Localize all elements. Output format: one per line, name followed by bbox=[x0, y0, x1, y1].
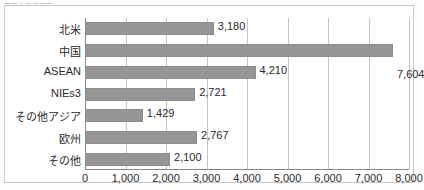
bar-value-label: 1,429 bbox=[147, 107, 175, 119]
plot-area: 01,0002,0003,0004,0005,0006,0007,0008,00… bbox=[85, 18, 409, 170]
chart-frame: 01,0002,0003,0004,0005,0006,0007,0008,00… bbox=[4, 5, 414, 183]
bar-value-label: 4,210 bbox=[260, 64, 288, 76]
bar-row: 北米3,180 bbox=[85, 22, 409, 35]
x-tick-label: 2,000 bbox=[152, 172, 180, 184]
category-label: ASEAN bbox=[44, 65, 81, 77]
x-tick-label: 4,000 bbox=[233, 172, 261, 184]
bar-value-label: 2,767 bbox=[201, 129, 229, 141]
bar-row: ASEAN4,210 bbox=[85, 66, 409, 79]
bar[interactable] bbox=[85, 131, 197, 144]
bar-value-label: 2,100 bbox=[174, 151, 202, 163]
bar-row: その他2,100 bbox=[85, 153, 409, 166]
x-tick-label: 6,000 bbox=[314, 172, 342, 184]
bar-row: NIEs32,721 bbox=[85, 88, 409, 101]
category-label: 欧州 bbox=[59, 130, 81, 146]
bar[interactable] bbox=[85, 153, 170, 166]
x-tick-label: 7,000 bbox=[355, 172, 383, 184]
x-tick-label: 8,000 bbox=[395, 172, 423, 184]
category-label: 北米 bbox=[59, 21, 81, 37]
cut-off-caption: ーー・ーーーー bbox=[4, 0, 74, 4]
x-tick-label: 0 bbox=[82, 172, 88, 184]
category-label: その他 bbox=[48, 152, 81, 168]
bar[interactable] bbox=[85, 109, 143, 122]
bar-row: 中国7,604 bbox=[85, 44, 409, 57]
bar-value-label: 2,721 bbox=[199, 86, 227, 98]
x-tick-label: 3,000 bbox=[193, 172, 221, 184]
bar[interactable] bbox=[85, 44, 393, 57]
bar-row: 欧州2,767 bbox=[85, 131, 409, 144]
x-tick-label: 1,000 bbox=[112, 172, 140, 184]
category-label: NIEs3 bbox=[51, 87, 81, 99]
bar-row: その他アジア1,429 bbox=[85, 109, 409, 122]
category-label: 中国 bbox=[59, 43, 81, 59]
bar-value-label: 3,180 bbox=[218, 20, 246, 32]
bar[interactable] bbox=[85, 88, 195, 101]
bar[interactable] bbox=[85, 22, 214, 35]
x-axis-line bbox=[85, 169, 409, 170]
gridline bbox=[409, 18, 410, 170]
x-tick-label: 5,000 bbox=[274, 172, 302, 184]
category-label: その他アジア bbox=[15, 108, 81, 124]
bar[interactable] bbox=[85, 66, 256, 79]
